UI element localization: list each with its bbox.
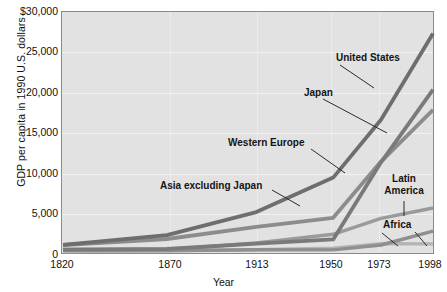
x-tick-1820: 1820 <box>50 258 73 270</box>
annotation-latin-america: Latin America <box>378 173 430 196</box>
plot-area <box>61 11 434 254</box>
y-tick-25000: 25,000 <box>0 45 58 57</box>
annotation-latin-america-line2: America <box>378 185 430 197</box>
x-tick-1913: 1913 <box>245 258 268 270</box>
annotation-united-states: United States <box>336 52 400 64</box>
x-tick-1870: 1870 <box>158 258 181 270</box>
x-tick-1998: 1998 <box>418 258 441 270</box>
annotation-asia-excluding-japan: Asia excluding Japan <box>160 180 262 192</box>
y-tick-0: 0 <box>0 248 58 260</box>
y-tick-15000: 15,000 <box>0 126 58 138</box>
line-japan <box>63 90 433 250</box>
x-tick-1950: 1950 <box>319 258 342 270</box>
y-tick-10000: 10,000 <box>0 167 58 179</box>
x-axis-title: Year <box>0 276 447 288</box>
y-tick-30000: $30,000 <box>0 5 58 17</box>
chart-figure: GDP per capita in 1990 U.S. dollars $30,… <box>0 0 447 292</box>
annotation-japan: Japan <box>304 87 333 99</box>
series-lines <box>62 12 435 255</box>
annotation-latin-america-line1: Latin <box>378 173 430 185</box>
annotation-africa: Africa <box>383 219 411 231</box>
y-axis-tick-labels: $30,000 25,000 20,000 15,000 10,000 5,00… <box>0 0 58 292</box>
x-tick-1973: 1973 <box>367 258 390 270</box>
annotation-western-europe: Western Europe <box>228 137 305 149</box>
y-tick-5000: 5,000 <box>0 207 58 219</box>
y-tick-20000: 20,000 <box>0 86 58 98</box>
